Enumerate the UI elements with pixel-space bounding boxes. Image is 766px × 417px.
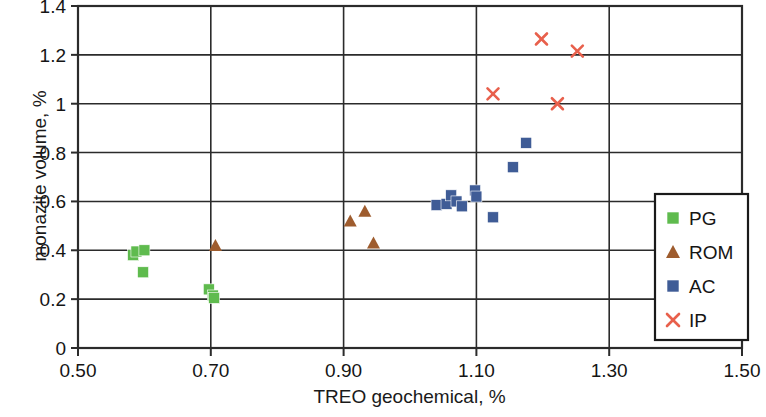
y-tick-label: 1 <box>55 94 66 115</box>
x-axis-title: TREO geochemical, % <box>77 386 742 408</box>
chart-canvas: 00.20.40.60.811.21.40.500.700.901.101.30… <box>0 0 766 417</box>
x-tick-label: 0.70 <box>192 360 229 381</box>
data-point-square <box>667 212 679 224</box>
legend-label: PG <box>689 208 716 229</box>
plot-frame <box>78 6 742 348</box>
data-point-triangle <box>344 214 357 226</box>
x-tick-label: 0.90 <box>325 360 362 381</box>
y-tick-label: 0.2 <box>40 289 66 310</box>
data-point-square <box>488 212 499 223</box>
data-point-square <box>667 280 679 292</box>
data-point-square <box>138 267 149 278</box>
data-point-triangle <box>367 236 380 248</box>
x-tick-label: 1.50 <box>724 360 761 381</box>
legend-label: AC <box>689 276 715 297</box>
data-point-triangle <box>358 205 371 217</box>
y-tick-label: 1.4 <box>40 0 67 17</box>
legend-label: ROM <box>689 242 733 263</box>
data-point-square <box>456 201 467 212</box>
data-point-square <box>471 191 482 202</box>
series-ip <box>488 33 583 109</box>
x-tick-label: 1.30 <box>591 360 628 381</box>
y-tick-label: 0 <box>55 338 66 359</box>
series-rom <box>209 205 380 251</box>
data-point-square <box>431 200 442 211</box>
x-tick-label: 1.10 <box>458 360 495 381</box>
legend-label: IP <box>689 310 707 331</box>
x-tick-label: 0.50 <box>60 360 97 381</box>
legend: PGROMACIP <box>655 194 748 340</box>
series-ac <box>431 137 532 223</box>
data-point-square <box>139 245 150 256</box>
data-point-square <box>507 162 518 173</box>
scatter-chart: 00.20.40.60.811.21.40.500.700.901.101.30… <box>0 0 766 417</box>
y-axis-title: monazite volume, % <box>29 61 51 291</box>
data-point-square <box>209 292 220 303</box>
series-pg <box>128 245 220 304</box>
data-point-square <box>521 137 532 148</box>
